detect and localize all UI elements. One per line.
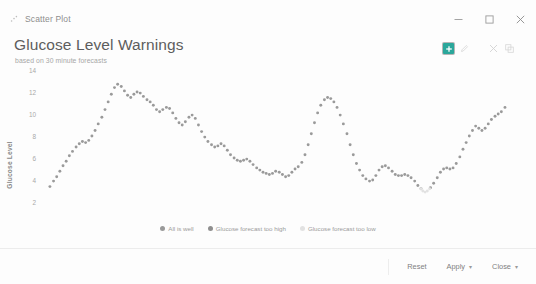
scatter-point [426,190,429,193]
scatter-point [323,98,326,101]
scatter-point [374,174,377,177]
scatter-point [500,110,503,113]
scatter-point [504,106,507,109]
scatter-point [416,184,419,187]
legend-item[interactable]: All is well [160,225,193,232]
scatter-point [245,158,248,161]
scatter-point [174,117,177,120]
scatter-point [181,124,184,127]
scatter-point [171,111,174,114]
legend-swatch-icon [300,226,305,231]
scatter-point [487,122,490,125]
scatter-point [439,171,442,174]
scatter-plot-window: Scatter Plot Glucose Level Warnings base… [0,0,536,284]
scatter-canvas[interactable] [0,60,536,210]
expand-icon[interactable] [504,43,515,54]
apply-button[interactable]: Apply ▾ [439,258,481,275]
settings-icon[interactable] [488,43,499,54]
scatter-point [84,141,87,144]
scatter-point [258,169,261,172]
chevron-down-icon: ▾ [469,264,472,270]
scatter-point [474,125,477,128]
legend-item[interactable]: Glucose forecast too high [208,225,286,232]
scatter-point [310,132,313,135]
chevron-down-icon: ▾ [515,264,518,270]
scatter-point [300,161,303,164]
scatter-point [290,171,293,174]
scatter-point [52,180,55,183]
scatter-point [210,143,213,146]
scatter-point [78,142,81,145]
scatter-point [297,165,300,168]
close-window-button[interactable] [505,8,536,30]
scatter-point [432,182,435,185]
scatter-point [168,107,171,110]
scatter-point [358,169,361,172]
scatter-point [497,113,500,116]
legend-label: All is well [168,225,193,232]
scatter-point [87,139,90,142]
scatter-point [413,180,416,183]
scatter-point [364,177,367,180]
scatter-point [126,94,129,97]
scatter-point [445,166,448,169]
scatter-point [120,85,123,88]
scatter-point [142,95,145,98]
scatter-point [336,106,339,109]
scatter-point [339,114,342,117]
scatter-point [184,120,187,123]
scatter-point [428,187,431,190]
scatter-point [391,170,394,173]
edit-icon[interactable] [459,43,470,54]
scatter-point [178,121,181,124]
minimize-button[interactable] [443,8,474,30]
scatter-point [352,153,355,156]
scatter-point [136,91,139,94]
close-button-label: Close [492,262,511,271]
scatter-point [100,116,103,119]
scatter-point [81,140,84,143]
scatter-point [462,148,465,151]
scatter-point [75,146,78,149]
scatter-point [403,173,406,176]
scatter-point [239,160,242,163]
scatter-point [220,142,223,145]
scatter-point [129,96,132,99]
scatter-point [68,154,71,157]
scatter-point [394,173,397,176]
scatter-point [349,143,352,146]
scatter-point [236,159,239,162]
scatter-point [319,104,322,107]
scatter-point [158,110,161,113]
scatter-point [262,171,265,174]
add-icon[interactable] [443,43,454,54]
dialog-footer: Reset Apply ▾ Close ▾ [0,248,536,284]
scatter-point [58,170,61,173]
scatter-point [387,166,390,169]
legend-item[interactable]: Glucose forecast too low [300,225,376,232]
legend-swatch-icon [208,226,213,231]
scatter-point [90,135,93,138]
scatter-point [132,93,135,96]
scatter-point [368,180,371,183]
scatter-point [400,174,403,177]
scatter-point [48,185,51,188]
scatter-point [252,163,255,166]
maximize-button[interactable] [474,8,505,30]
scatter-point [194,117,197,120]
scatter-point [371,179,374,182]
scatter-point [284,175,287,178]
scatter-point [455,162,458,165]
scatter-point [332,100,335,103]
scatter-point [223,144,226,147]
reset-button[interactable]: Reset [399,258,434,275]
scatter-point [213,146,216,149]
scatter-point [490,118,493,121]
scatter-point [197,124,200,127]
scatter-point [381,165,384,168]
scatter-point [226,149,229,152]
scatter-point [62,164,65,167]
scatter-point [71,150,74,153]
close-button[interactable]: Close ▾ [484,258,526,275]
scatter-point [294,168,297,171]
